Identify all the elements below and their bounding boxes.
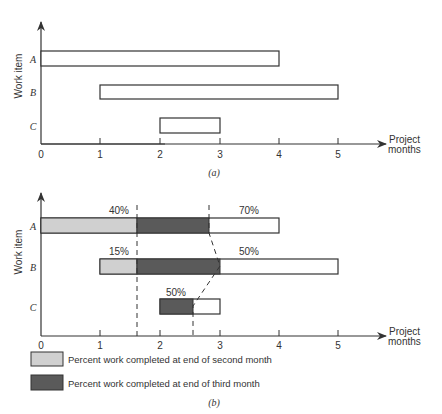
pct-c-month3: 50% bbox=[166, 287, 186, 298]
category-label-a: A bbox=[29, 54, 37, 65]
category-label-b: B bbox=[30, 87, 36, 98]
svg-text:1: 1 bbox=[97, 340, 103, 351]
y-axis-title-a: Work item bbox=[13, 54, 24, 99]
bar-a-dark-segment bbox=[137, 218, 209, 233]
legend: Percent work completed at end of second … bbox=[31, 352, 272, 390]
svg-text:5: 5 bbox=[335, 340, 341, 351]
x-ticks-a bbox=[100, 138, 338, 144]
pct-b-month2: 15% bbox=[109, 246, 129, 257]
category-label-b: B bbox=[30, 262, 36, 273]
pct-b-month3: 50% bbox=[239, 246, 259, 257]
pct-a-month3: 70% bbox=[239, 205, 259, 216]
svg-text:5: 5 bbox=[335, 149, 341, 160]
bar-b-item-b bbox=[100, 259, 338, 274]
bar-b-item-a bbox=[41, 218, 279, 233]
svg-text:2: 2 bbox=[157, 149, 163, 160]
chart-b: 0 1 2 3 4 5 Project months Work item A B… bbox=[13, 193, 421, 409]
x-ticks-b bbox=[100, 330, 338, 336]
bar-a-light-segment bbox=[41, 218, 137, 233]
legend-swatch-third-month bbox=[31, 375, 63, 390]
bar-c-dark-segment bbox=[160, 299, 193, 314]
svg-text:2: 2 bbox=[157, 340, 163, 351]
bar-b-dark-segment bbox=[137, 259, 220, 274]
chart-a: 0 1 2 3 4 5 Project months Work item A B… bbox=[13, 22, 421, 179]
category-label-c: C bbox=[30, 302, 37, 313]
caption-b: (b) bbox=[208, 397, 220, 409]
legend-label-second-month: Percent work completed at end of second … bbox=[68, 354, 272, 365]
caption-a: (a) bbox=[208, 167, 220, 179]
bar-a-item-c bbox=[160, 118, 220, 133]
x-axis-title-b-line2: months bbox=[388, 336, 421, 347]
legend-swatch-second-month bbox=[31, 352, 63, 366]
svg-text:4: 4 bbox=[276, 149, 282, 160]
bar-a-item-a bbox=[41, 51, 279, 66]
svg-text:0: 0 bbox=[38, 340, 44, 351]
svg-text:3: 3 bbox=[217, 149, 223, 160]
pct-a-month2: 40% bbox=[109, 205, 129, 216]
svg-text:4: 4 bbox=[276, 340, 282, 351]
x-tick-labels-a: 0 1 2 3 4 5 bbox=[38, 149, 341, 160]
svg-text:1: 1 bbox=[97, 149, 103, 160]
category-label-c: C bbox=[30, 121, 37, 132]
bar-b-item-c bbox=[160, 299, 220, 314]
y-axis-title-b: Work item bbox=[13, 230, 24, 275]
svg-text:3: 3 bbox=[217, 340, 223, 351]
x-tick-labels-b: 0 1 2 3 4 5 bbox=[38, 340, 341, 351]
bar-b-light-segment bbox=[100, 259, 137, 274]
bar-a-item-b bbox=[100, 85, 338, 99]
legend-label-third-month: Percent work completed at end of third m… bbox=[68, 378, 260, 389]
x-axis-title-a-line2: months bbox=[388, 144, 421, 155]
category-label-a: A bbox=[29, 221, 37, 232]
svg-text:0: 0 bbox=[38, 149, 44, 160]
